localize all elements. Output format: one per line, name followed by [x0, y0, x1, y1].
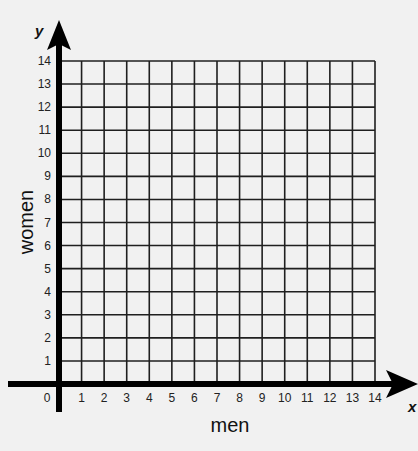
x-tick-label: 6 — [191, 391, 198, 405]
y-tick-label: 6 — [44, 239, 51, 253]
axes — [8, 20, 418, 412]
x-tick-label: 5 — [169, 391, 176, 405]
y-axis-letter: y — [34, 22, 44, 39]
y-tick-label: 14 — [38, 54, 52, 68]
x-tick-labels: 01234567891011121314 — [44, 391, 382, 405]
x-tick-label: 10 — [278, 391, 292, 405]
y-tick-label: 4 — [44, 285, 51, 299]
y-tick-label: 12 — [38, 100, 52, 114]
x-tick-label: 9 — [259, 391, 266, 405]
y-tick-label: 5 — [44, 262, 51, 276]
x-tick-label: 1 — [78, 391, 85, 405]
y-tick-labels: 1234567891011121314 — [38, 54, 52, 368]
y-tick-label: 2 — [44, 331, 51, 345]
x-tick-label: 0 — [44, 391, 51, 405]
y-tick-label: 11 — [39, 123, 52, 137]
y-axis-title: women — [15, 190, 37, 255]
y-tick-label: 8 — [44, 192, 51, 206]
x-tick-label: 13 — [346, 391, 360, 405]
x-tick-label: 4 — [146, 391, 153, 405]
grid-svg: 01234567891011121314 1234567891011121314… — [0, 0, 418, 451]
y-tick-label: 3 — [44, 308, 51, 322]
y-tick-label: 10 — [38, 146, 52, 160]
coordinate-grid: 01234567891011121314 1234567891011121314… — [0, 0, 418, 451]
y-tick-label: 9 — [44, 169, 51, 183]
x-axis-title: men — [211, 414, 250, 436]
x-tick-label: 11 — [301, 391, 314, 405]
x-tick-label: 2 — [101, 391, 108, 405]
x-tick-label: 7 — [214, 391, 221, 405]
x-tick-label: 8 — [236, 391, 243, 405]
y-tick-label: 7 — [44, 216, 51, 230]
grid-lines — [59, 61, 375, 384]
x-axis-letter: x — [407, 398, 417, 415]
x-tick-label: 14 — [368, 391, 382, 405]
y-tick-label: 13 — [38, 77, 52, 91]
x-tick-label: 12 — [323, 391, 337, 405]
x-tick-label: 3 — [123, 391, 130, 405]
y-tick-label: 1 — [44, 354, 51, 368]
